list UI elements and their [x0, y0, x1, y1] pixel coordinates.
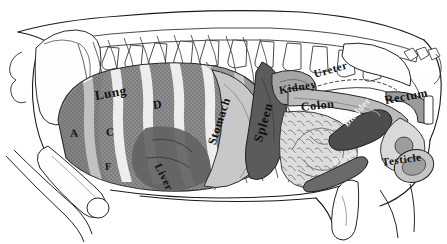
anatomical-figure: Lung A C F D Liver Stomach Spleen Kidney…	[0, 0, 447, 244]
hind-leg-bone	[332, 180, 359, 240]
anatomy-drawing	[0, 0, 447, 244]
